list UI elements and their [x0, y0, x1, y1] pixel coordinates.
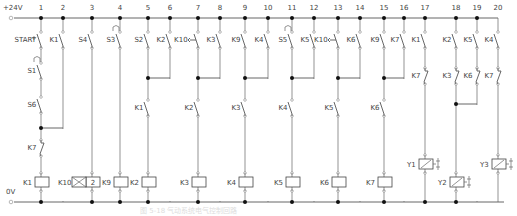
contact-label-k2: K2 — [442, 36, 451, 44]
junction-node — [290, 16, 294, 20]
terminal-icon — [313, 31, 316, 34]
spring-return-icon — [436, 158, 440, 170]
contact-label-k1: K1 — [49, 36, 58, 44]
junction-node — [423, 200, 427, 204]
rung-number: 15 — [380, 4, 389, 12]
coil-label: Y1 — [406, 161, 416, 169]
terminal-icon — [497, 31, 500, 34]
junction-node — [243, 76, 247, 80]
junction-node — [382, 16, 386, 20]
coil-k5-icon — [286, 177, 300, 187]
contact-label-s3: S3 — [106, 36, 115, 44]
coil-label: K7 — [366, 179, 375, 187]
junction-node — [423, 16, 427, 20]
junction-node — [336, 16, 340, 20]
contact-label-k4: K4 — [484, 36, 494, 44]
coil-label: K5 — [274, 179, 283, 187]
junction-node — [290, 76, 294, 80]
junction-node — [266, 16, 270, 20]
rung-number: 16 — [400, 4, 409, 12]
coil-k4-icon — [239, 177, 253, 187]
rung-number: 2 — [61, 4, 65, 12]
contact-label-s2: S2 — [134, 36, 143, 44]
junction-node — [146, 200, 150, 204]
terminal-icon — [40, 62, 43, 65]
contact-label-s6: S6 — [27, 101, 36, 109]
terminal-icon — [383, 31, 386, 34]
ladder-diagram: +24V0V1234567891011121314151617181920STA… — [0, 0, 517, 216]
spring-return-icon — [509, 158, 513, 170]
terminal-icon — [424, 31, 427, 34]
rail-bottom-terminal-icon — [9, 200, 13, 204]
junction-node — [454, 16, 458, 20]
junction-node — [118, 200, 122, 204]
coil-label: K6 — [320, 179, 330, 187]
rung-number: 3 — [90, 4, 94, 12]
junction-node — [358, 16, 362, 20]
terminal-icon — [169, 31, 172, 34]
coil-label: Y3 — [479, 161, 489, 169]
rung-number: 9 — [243, 4, 247, 12]
junction-node — [196, 16, 200, 20]
junction-node — [168, 16, 172, 20]
contact-label-k5: K5 — [300, 36, 309, 44]
rail-bottom-label: 0V — [6, 188, 15, 196]
contact-label-start: START — [15, 36, 37, 44]
spring-return-icon — [467, 176, 471, 188]
contact-label-k7: K7 — [484, 72, 493, 80]
rung-number: 10 — [264, 4, 273, 12]
rung-number: 8 — [218, 4, 222, 12]
terminal-icon — [91, 31, 94, 34]
coil-k7-icon — [378, 177, 392, 187]
contact-label-s5: S5 — [278, 36, 287, 44]
junction-node — [243, 200, 247, 204]
terminal-icon — [476, 31, 479, 34]
terminal-icon — [197, 99, 200, 102]
junction-node — [218, 16, 222, 20]
coil-label: K3 — [180, 179, 189, 187]
terminal-icon — [244, 31, 247, 34]
coil-label: Y2 — [437, 179, 447, 187]
contact-label-k10: K10 — [314, 36, 328, 44]
rung-number: 19 — [473, 4, 482, 12]
junction-node — [243, 16, 247, 20]
terminal-icon — [40, 96, 43, 99]
coil-k3-icon — [192, 177, 206, 187]
junction-node — [382, 200, 386, 204]
junction-node — [146, 16, 150, 20]
coil-label: K1 — [23, 179, 32, 187]
rung-number: 1 — [39, 4, 43, 12]
junction-node — [454, 200, 458, 204]
rung-number: 18 — [452, 4, 461, 12]
rung-number: 20 — [494, 4, 503, 12]
junction-node — [402, 16, 406, 20]
coil-label: K9 — [102, 179, 111, 187]
junction-node — [336, 76, 340, 80]
contact-label-s1: S1 — [27, 67, 36, 75]
contact-label-k7: K7 — [27, 144, 36, 152]
coil-k6-icon — [332, 177, 346, 187]
contact-label-k1: K1 — [134, 104, 143, 112]
junction-node — [39, 200, 43, 204]
limit-switch-cam-icon — [285, 26, 291, 32]
junction-node — [312, 16, 316, 20]
junction-node — [39, 126, 43, 130]
rung-number: 7 — [196, 4, 200, 12]
terminal-icon — [383, 99, 386, 102]
terminal-icon — [119, 31, 122, 34]
contact-label-k6: K6 — [346, 36, 356, 44]
contact-label-k1: K1 — [411, 36, 420, 44]
ladder-diagram-canvas: +24V0V1234567891011121314151617181920STA… — [0, 0, 517, 216]
coil-label: K2 — [130, 179, 139, 187]
contact-label-k6: K6 — [370, 104, 380, 112]
rung-number: 4 — [118, 4, 123, 12]
junction-node — [39, 16, 43, 20]
rail-top-label: +24V — [3, 4, 23, 12]
terminal-icon — [337, 99, 340, 102]
rung-number: 5 — [146, 4, 150, 12]
contact-label-k3: K3 — [231, 104, 240, 112]
rung-number: 6 — [168, 4, 173, 12]
contact-label-k6: K6 — [463, 72, 473, 80]
coil-k1-icon — [35, 177, 49, 187]
contact-label-k9: K9 — [231, 36, 240, 44]
